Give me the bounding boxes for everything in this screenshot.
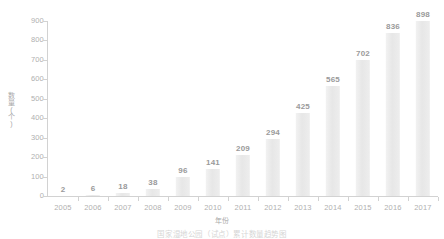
bar-group: 898: [408, 21, 438, 196]
bar-group: 38: [138, 21, 168, 196]
bar-group: 209: [228, 21, 258, 196]
bar-value-label: 425: [296, 102, 310, 111]
x-axis-tick: [138, 197, 139, 201]
x-axis-tick: [78, 197, 79, 201]
bar[interactable]: [176, 177, 190, 196]
x-axis-tick-label: 2007: [114, 203, 132, 212]
y-axis-tick-label: 600: [16, 75, 44, 83]
x-axis-tick: [228, 197, 229, 201]
x-axis-tick-label: 2010: [204, 203, 222, 212]
y-axis-tick-label: 800: [16, 36, 44, 44]
y-axis-tick: [43, 99, 47, 100]
y-axis-title: 数量(个): [1, 92, 15, 127]
x-axis-title: 年份: [0, 215, 444, 225]
bar-group: 425: [288, 21, 318, 196]
bar[interactable]: [86, 195, 100, 196]
bar[interactable]: [326, 86, 340, 196]
x-axis-tick: [378, 197, 379, 201]
bar-value-label: 898: [416, 10, 430, 19]
x-axis-tick: [318, 197, 319, 201]
bar-value-label: 96: [178, 166, 187, 175]
y-axis-tick: [43, 40, 47, 41]
bar[interactable]: [266, 139, 280, 196]
bar-group: 294: [258, 21, 288, 196]
bar-group: 141: [198, 21, 228, 196]
bar-group: 565: [318, 21, 348, 196]
x-axis-tick: [408, 197, 409, 201]
bar-value-label: 2: [61, 185, 66, 194]
bar-group: 836: [378, 21, 408, 196]
y-axis-tick: [43, 157, 47, 158]
x-axis-tick-label: 2006: [84, 203, 102, 212]
x-axis-tick: [258, 197, 259, 201]
bar-value-label: 18: [118, 182, 127, 191]
bar-group: 702: [348, 21, 378, 196]
x-axis-tick-label: 2005: [54, 203, 72, 212]
plot-area: 26183896141209294425565702836898: [48, 21, 438, 196]
x-axis-line: [47, 196, 438, 197]
bar[interactable]: [236, 155, 250, 196]
bar-value-label: 565: [326, 75, 340, 84]
bar[interactable]: [116, 193, 130, 197]
bar[interactable]: [386, 33, 400, 196]
y-axis-tick: [43, 21, 47, 22]
bar-value-label: 294: [266, 128, 280, 137]
bar[interactable]: [206, 169, 220, 196]
y-axis-tick-label: 700: [16, 56, 44, 64]
x-axis-tick: [108, 197, 109, 201]
y-axis-tick: [43, 118, 47, 119]
y-axis-tick: [43, 177, 47, 178]
x-axis-tick-label: 2013: [294, 203, 312, 212]
figure-caption: 国家湿地公园（试点）累计数量趋势图: [0, 228, 444, 239]
x-axis-tick-label: 2009: [174, 203, 192, 212]
bar[interactable]: [356, 60, 370, 197]
y-axis-tick-label: 500: [16, 95, 44, 103]
bar-chart: 数量(个) 0100200300400500600700800900 26183…: [0, 0, 444, 239]
x-axis-tick: [198, 197, 199, 201]
bar[interactable]: [146, 189, 160, 196]
x-axis-tick: [288, 197, 289, 201]
x-axis-tick-label: 2014: [324, 203, 342, 212]
bar-value-label: 141: [206, 158, 220, 167]
y-axis-tick-label: 100: [16, 173, 44, 181]
bar-value-label: 6: [91, 184, 96, 193]
x-axis-tick: [438, 197, 439, 201]
bar-value-label: 38: [148, 178, 157, 187]
x-axis-tick: [168, 197, 169, 201]
x-axis-tick-label: 2008: [144, 203, 162, 212]
bar-group: 6: [78, 21, 108, 196]
x-axis-tick-label: 2012: [264, 203, 282, 212]
x-axis-tick-label: 2015: [354, 203, 372, 212]
bar-group: 96: [168, 21, 198, 196]
y-axis-tick-labels: 0100200300400500600700800900: [16, 0, 44, 239]
y-axis-tick-label: 300: [16, 134, 44, 142]
bar[interactable]: [416, 21, 430, 196]
bar-value-label: 836: [386, 22, 400, 31]
y-axis-tick-label: 200: [16, 153, 44, 161]
y-axis-tick-label: 400: [16, 114, 44, 122]
bar[interactable]: [296, 113, 310, 196]
x-axis-tick-label: 2011: [235, 203, 252, 212]
bar-value-label: 209: [236, 144, 250, 153]
y-axis-tick: [43, 138, 47, 139]
x-axis-tick-label: 2017: [414, 203, 432, 212]
y-axis-tick: [43, 196, 47, 197]
bar-group: 2: [48, 21, 78, 196]
x-axis-tick-label: 2016: [384, 203, 402, 212]
y-axis-tick-label: 0: [16, 192, 44, 200]
bar-value-label: 702: [356, 49, 370, 58]
y-axis-tick: [43, 60, 47, 61]
y-axis-tick-label: 900: [16, 17, 44, 25]
x-axis-tick: [348, 197, 349, 201]
y-axis-tick: [43, 79, 47, 80]
bar-group: 18: [108, 21, 138, 196]
